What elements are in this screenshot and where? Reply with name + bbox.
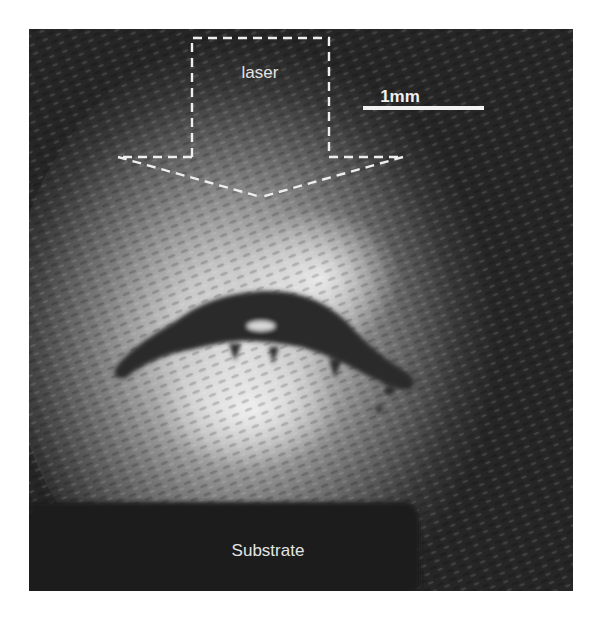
substrate-label: Substrate: [232, 541, 305, 561]
laser-label: laser: [242, 63, 279, 83]
micrograph-image: [29, 29, 573, 591]
micrograph-figure: laser 1mm Substrate: [29, 29, 573, 591]
scale-bar-label: 1mm: [380, 87, 420, 107]
